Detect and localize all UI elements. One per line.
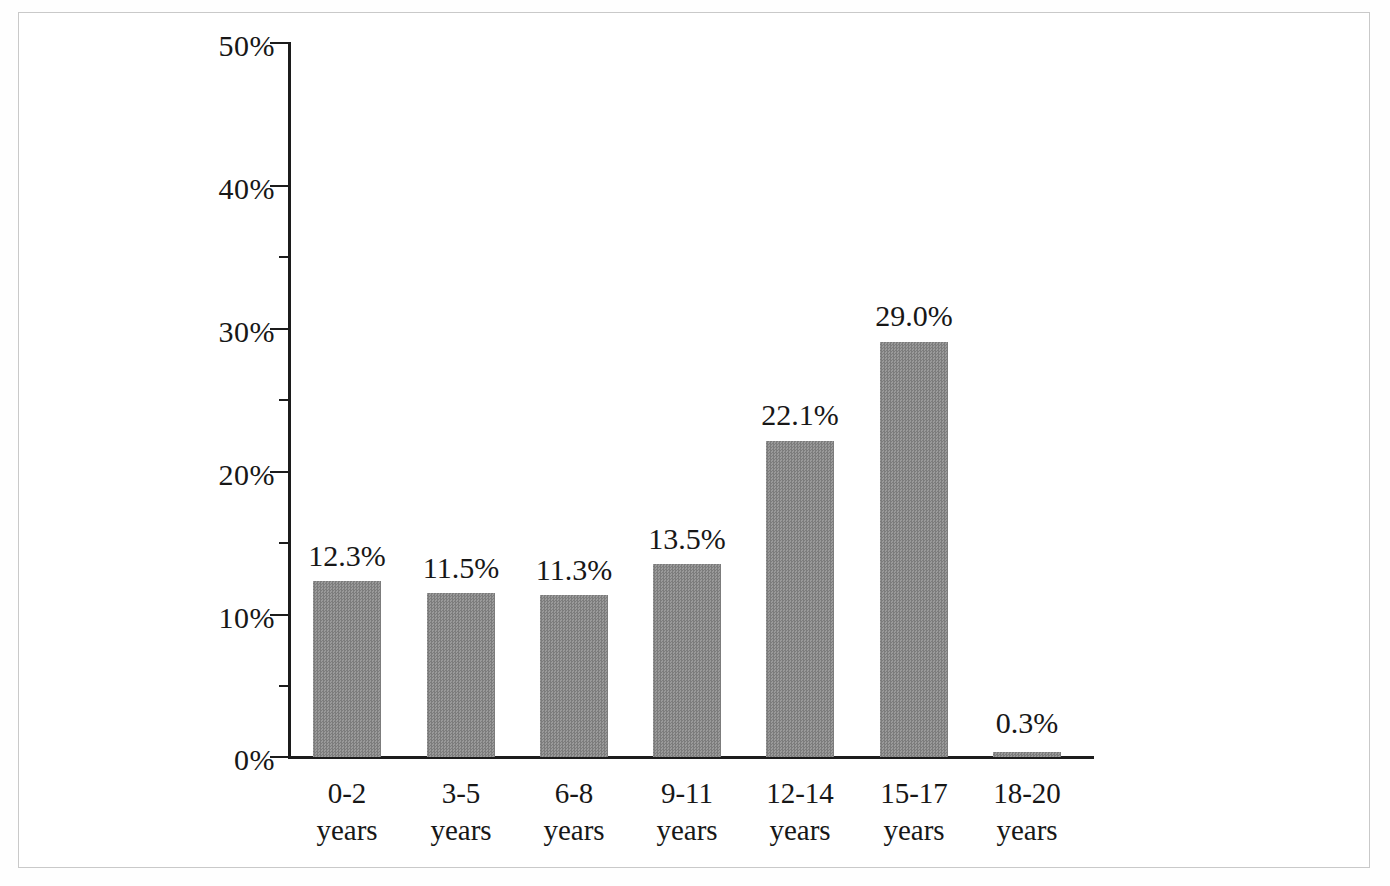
bar-value-label-2: 11.3%	[504, 555, 644, 585]
bar-0[interactable]	[313, 581, 381, 757]
x-category-unit-6: years	[957, 812, 1097, 849]
bar-value-label-5: 29.0%	[844, 301, 984, 331]
bar-value-label-4: 22.1%	[730, 400, 870, 430]
bar-4[interactable]	[766, 441, 834, 757]
bar-6[interactable]	[993, 752, 1061, 757]
bars-layer: 12.3% 0-2 years 11.5% 3-5 years 11.3% 6-…	[0, 0, 1390, 886]
bar-5[interactable]	[880, 342, 948, 757]
bar-value-label-3: 13.5%	[617, 524, 757, 554]
x-category-range-6: 18-20	[957, 775, 1097, 812]
bar-2[interactable]	[540, 595, 608, 757]
bar-value-label-6: 0.3%	[957, 708, 1097, 738]
bar-1[interactable]	[427, 593, 495, 757]
x-category-label-6: 18-20 years	[957, 775, 1097, 849]
bar-3[interactable]	[653, 564, 721, 757]
bar-chart: 50% 40% 30% 20% 10% 0% 12.3% 0-2 years	[0, 0, 1390, 886]
chart-page: 50% 40% 30% 20% 10% 0% 12.3% 0-2 years	[0, 0, 1390, 886]
